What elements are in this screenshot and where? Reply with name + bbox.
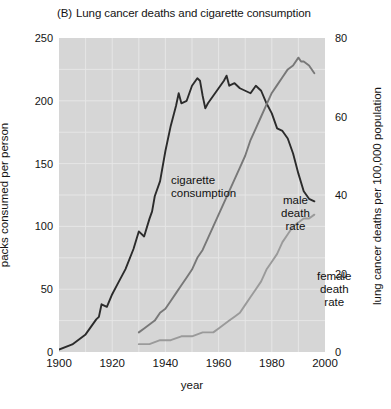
annotation-cigarette-line1: cigarette	[171, 174, 236, 187]
left-tick-mark	[53, 163, 59, 165]
annotation-female-line3: rate	[317, 296, 352, 309]
left-axis-title: packs consumed per person	[0, 123, 10, 267]
female-death-rate-line	[139, 215, 315, 345]
x-tick-label-1980: 1980	[259, 357, 285, 369]
x-tick-label-1900: 1900	[46, 357, 72, 369]
right-tick-label-20: 20	[335, 268, 347, 280]
figure-title: (B)Lung cancer deaths and cigarette cons…	[57, 7, 311, 19]
annotation-male-death-rate: male death rate	[281, 194, 310, 233]
left-tick-label-50: 50	[41, 283, 53, 295]
right-tick-label-80: 80	[335, 32, 347, 44]
left-tick-mark	[53, 226, 59, 228]
right-tick-mark	[325, 116, 331, 118]
annotation-male-line2: death	[281, 207, 310, 220]
x-axis-title: year	[181, 379, 203, 391]
left-tick-label-250: 250	[35, 32, 53, 44]
annotation-male-line1: male	[281, 194, 310, 207]
plot-area: cigarette consumption male death rate fe…	[59, 38, 325, 352]
x-tick-label-1920: 1920	[99, 357, 125, 369]
x-tick-label-2000: 2000	[312, 357, 338, 369]
annotation-male-line3: rate	[281, 220, 310, 233]
annotation-cigarette-line2: consumption	[171, 187, 236, 200]
x-tick-label-1960: 1960	[206, 357, 232, 369]
figure-tag: (B)	[57, 7, 72, 19]
left-tick-label-200: 200	[35, 95, 53, 107]
cigarette-consumption-line	[59, 76, 314, 350]
annotation-cigarette-consumption: cigarette consumption	[171, 174, 236, 200]
figure-panel: (B)Lung cancer deaths and cigarette cons…	[0, 0, 391, 409]
annotation-female-line2: death	[317, 283, 352, 296]
x-tick-label-1940: 1940	[153, 357, 179, 369]
figure-title-text: Lung cancer deaths and cigarette consump…	[76, 7, 311, 19]
left-tick-label-100: 100	[35, 220, 53, 232]
right-axis-title: lung cancer deaths per 100,000 populatio…	[371, 87, 383, 305]
left-tick-mark	[53, 100, 59, 102]
right-tick-label-40: 40	[335, 189, 347, 201]
left-tick-mark	[53, 37, 59, 39]
right-tick-label-60: 60	[335, 111, 347, 123]
left-tick-label-150: 150	[35, 158, 53, 170]
right-tick-mark	[325, 194, 331, 196]
right-tick-mark	[325, 351, 331, 353]
left-tick-mark	[53, 288, 59, 290]
right-tick-mark	[325, 273, 331, 275]
right-tick-mark	[325, 37, 331, 39]
